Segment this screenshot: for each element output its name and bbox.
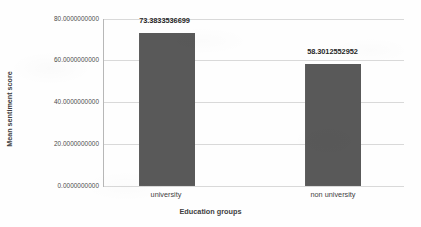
y-axis-title-container: Mean sentiment score	[0, 0, 14, 227]
y-tick-label-80: 80.0000000000	[54, 15, 99, 23]
data-label-university: 73.3833536699	[107, 16, 222, 26]
bar-non-university	[305, 64, 361, 186]
y-tick-label-20: 20.0000000000	[54, 140, 99, 148]
x-category-label-university: university	[111, 190, 221, 200]
data-label-non-university: 58.3012552952	[275, 47, 390, 57]
gridline-0	[103, 186, 404, 187]
y-axis-tick-labels: 80.0000000000 60.0000000000 40.000000000…	[14, 0, 99, 227]
y-axis-title: Mean sentiment score	[5, 47, 15, 171]
y-tick-label-0: 0.0000000000	[58, 182, 99, 190]
plot-area	[103, 19, 404, 186]
x-category-label-non-university: non university	[278, 190, 388, 200]
y-tick-label-60: 60.0000000000	[54, 56, 99, 64]
bar-chart: 80.0000000000 60.0000000000 40.000000000…	[0, 0, 421, 227]
x-axis-title: Education groups	[0, 207, 421, 217]
y-tick-label-40: 40.0000000000	[54, 98, 99, 106]
y-axis-line	[103, 19, 104, 187]
bar-university	[139, 33, 195, 186]
